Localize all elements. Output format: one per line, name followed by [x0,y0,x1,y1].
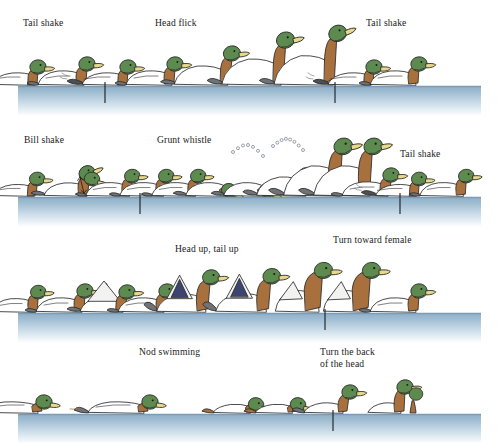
behavior-label-line: Tail shake [366,17,407,28]
behavior-label-line: Tail shake [400,148,441,159]
figure-canvas: Tail shakeHead flickTail shakeBill shake… [0,0,497,443]
head-shape [409,388,423,401]
behavior-label: Turn toward female [333,234,412,245]
behavior-label-line: Turn the back [320,346,375,357]
water-band [18,86,481,116]
behavior-label: Head flick [155,17,197,28]
behavior-label: Grunt whistle [157,134,211,145]
behavior-label: Tail shake [400,148,441,159]
behavior-label: Bill shake [24,134,64,145]
behavior-label-line: of the head [320,358,364,369]
behavior-label-line: Tail shake [23,17,64,28]
mallard-courtship-figure: Tail shakeHead flickTail shakeBill shake… [0,0,497,443]
duck-head-rear [409,388,423,401]
behavior-label: Tail shake [23,17,64,28]
water-band [18,414,481,443]
neck [324,39,336,83]
behavior-label: Nod swimming [139,346,200,357]
water-band [18,313,481,343]
behavior-label-line: Grunt whistle [157,134,211,145]
behavior-label-line: Head up, tail up [175,243,239,254]
water-band [18,197,481,227]
behavior-label-line: Head flick [155,17,197,28]
behavior-label-line: Nod swimming [139,346,200,357]
behavior-label: Tail shake [366,17,407,28]
behavior-label-line: Turn toward female [333,234,412,245]
behavior-label: Head up, tail up [175,243,239,254]
behavior-label-line: Bill shake [24,134,64,145]
